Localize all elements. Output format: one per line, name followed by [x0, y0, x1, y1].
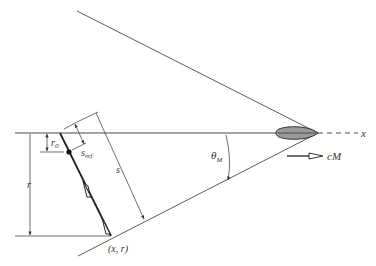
r0-dimension: r0: [40, 134, 64, 152]
x-axis-label: x: [360, 127, 366, 139]
point-label: (x, r): [108, 243, 129, 255]
diagram-canvas: x cM θM r0 r: [0, 0, 376, 266]
reference-point: [66, 149, 71, 154]
path-arrow-2: [102, 218, 110, 234]
s-dimension: s: [77, 112, 144, 219]
r-dimension: r: [15, 134, 110, 236]
mach-angle-arc: θM: [211, 135, 230, 180]
theta-label: θM: [211, 149, 223, 164]
mach-cone-lower-line: [78, 133, 318, 256]
r-label: r: [27, 179, 31, 190]
mach-cone-upper-line: [77, 11, 318, 133]
particle-path: [60, 133, 111, 236]
velocity-arrow: cM: [287, 150, 342, 162]
r0-label: r0: [51, 137, 59, 150]
sref-label: sref: [81, 147, 93, 160]
velocity-label: cM: [327, 150, 342, 162]
s-label: s: [116, 164, 120, 175]
